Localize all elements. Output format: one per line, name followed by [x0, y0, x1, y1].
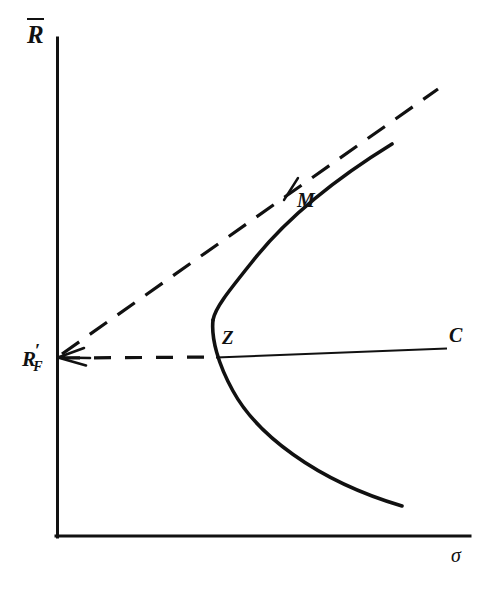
tangency-portfolio-label: M: [297, 190, 315, 210]
zero-beta-portfolio-label-text: Z: [222, 327, 234, 348]
zero-beta-endpoint-label: C: [449, 325, 462, 345]
frontier-lower-branch: [213, 320, 402, 506]
y-axis-label-text: R: [27, 18, 44, 47]
diagram-svg: [0, 0, 495, 592]
risk-free-label: R′F: [22, 341, 43, 374]
x-axis-label-text: σ: [451, 544, 461, 566]
risk-free-label-subscript: F: [33, 359, 42, 374]
zero-beta-line-solid: [216, 349, 447, 358]
arrowhead-to-rf-icon: [58, 348, 90, 366]
y-axis-label: R: [27, 18, 44, 47]
risk-free-label-prime: ′: [35, 340, 40, 361]
zero-beta-endpoint-label-text: C: [449, 324, 462, 346]
zero-beta-portfolio-label: Z: [222, 328, 234, 347]
frontier-upper-branch: [213, 144, 392, 320]
figure-canvas: R σ R′F M Z C: [0, 0, 495, 592]
x-axis-label: σ: [451, 545, 461, 565]
capital-market-line: [62, 89, 438, 354]
tangency-portfolio-label-text: M: [297, 189, 315, 211]
